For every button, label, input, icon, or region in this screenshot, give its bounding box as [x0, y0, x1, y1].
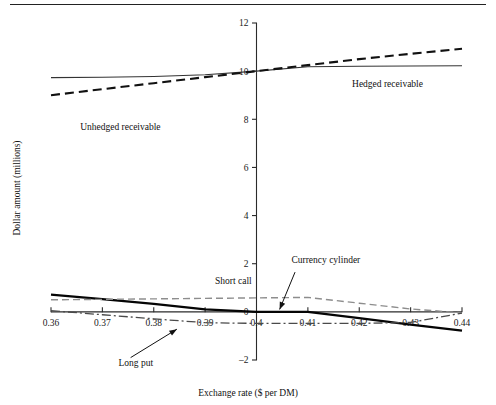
currency-cylinder-label: Currency cylinder	[291, 255, 361, 265]
x-tick-label: 0.36	[43, 318, 60, 328]
x-tick-label: 0.37	[94, 318, 111, 328]
y-tick-label: 4	[244, 211, 249, 221]
hedged-receivable-label: Hedged receivable	[352, 79, 423, 89]
figure-container: –2024681012 0.360.370.380.390.40.410.420…	[0, 0, 496, 405]
y-tick-label: 2	[244, 259, 249, 269]
y-axis-title: Dollar amount (millions)	[12, 141, 23, 236]
long-put-arrow-head	[169, 329, 177, 335]
long-put-leader-line	[131, 329, 177, 357]
x-axis-title: Exchange rate ($ per DM)	[198, 388, 298, 399]
y-tick-label: 6	[244, 163, 249, 173]
unhedged-receivable-label: Unhedged receivable	[80, 122, 160, 132]
chart-canvas: –2024681012 0.360.370.380.390.40.410.420…	[0, 0, 496, 405]
long-put-label: Long put	[118, 358, 153, 368]
y-tick-label: 12	[239, 18, 249, 28]
y-tick-labels: –2024681012	[238, 18, 249, 365]
x-tick-label: 0.44	[454, 318, 471, 328]
currency-cylinder-arrow-head	[280, 301, 286, 309]
short-call-label: Short call	[215, 276, 252, 286]
y-tick-label: –2	[238, 355, 249, 365]
y-tick-label: 8	[244, 115, 249, 125]
